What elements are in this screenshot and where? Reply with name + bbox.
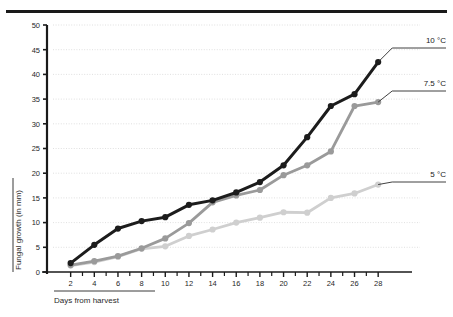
x-tick-label: 4 (92, 279, 96, 288)
series-leader-lines (378, 48, 446, 185)
y-tick-label: 20 (32, 169, 40, 178)
series-leader-line (378, 182, 446, 185)
x-tick-label: 12 (185, 279, 193, 288)
y-tick-label: 45 (32, 46, 40, 55)
x-tick-label: 22 (303, 279, 311, 288)
y-tick-label: 30 (32, 120, 40, 129)
grid-lines (53, 25, 420, 247)
data-point-marker (233, 189, 239, 195)
data-point-marker (162, 214, 168, 220)
series-label-3: 5 °C (430, 170, 446, 179)
y-tick-label: 40 (32, 70, 40, 79)
y-tick-label: 35 (32, 95, 40, 104)
x-axis-title: Days from harvest (54, 296, 120, 305)
data-point-marker (209, 197, 215, 203)
x-tick-label: 20 (279, 279, 287, 288)
x-tick-label: 16 (232, 279, 240, 288)
x-tick-label: 26 (350, 279, 358, 288)
data-point-marker (186, 202, 192, 208)
series-labels: 10 °C7.5 °C5 °C (424, 36, 447, 179)
x-tick-label: 24 (327, 279, 335, 288)
data-point-marker (351, 103, 357, 109)
line-chart: 05101520253035404550 2468101214161820222… (0, 0, 453, 317)
data-point-marker (186, 220, 192, 226)
data-point-marker (328, 103, 334, 109)
data-point-marker (91, 258, 97, 264)
figure-container: 05101520253035404550 2468101214161820222… (0, 0, 453, 317)
y-tick-label: 50 (32, 21, 40, 30)
data-point-marker (280, 172, 286, 178)
x-axis-ticks: 246810121416182022242628 (69, 272, 383, 288)
series-leader-line (378, 48, 446, 62)
y-tick-label: 15 (32, 194, 40, 203)
data-point-marker (233, 220, 239, 226)
x-tick-label: 28 (374, 279, 382, 288)
data-point-marker (280, 209, 286, 215)
data-point-marker (257, 187, 263, 193)
data-point-marker (91, 242, 97, 248)
x-tick-label: 6 (116, 279, 120, 288)
data-point-marker (304, 162, 310, 168)
y-axis-title: Fungal growth (in mm) (14, 190, 23, 270)
axes (42, 25, 412, 274)
data-point-marker (280, 162, 286, 168)
data-point-marker (328, 195, 334, 201)
x-tick-label: 10 (161, 279, 169, 288)
data-point-marker (351, 190, 357, 196)
series-line (71, 62, 379, 263)
data-point-marker (304, 134, 310, 140)
series-label-1: 10 °C (426, 36, 446, 45)
x-tick-label: 8 (140, 279, 144, 288)
data-point-marker (68, 260, 74, 266)
y-tick-label: 10 (32, 218, 40, 227)
data-point-marker (304, 210, 310, 216)
data-point-marker (115, 253, 121, 259)
data-point-marker (139, 245, 145, 251)
y-tick-label: 5 (36, 243, 40, 252)
data-point-marker (209, 226, 215, 232)
data-point-marker (162, 243, 168, 249)
series-label-2: 7.5 °C (424, 79, 447, 88)
series-leader-line (378, 91, 446, 102)
data-point-marker (162, 235, 168, 241)
data-series-group (68, 59, 382, 269)
y-axis-ticks: 05101520253035404550 (32, 21, 47, 277)
data-point-marker (328, 148, 334, 154)
x-tick-label: 2 (69, 279, 73, 288)
x-tick-label: 18 (256, 279, 264, 288)
data-point-marker (257, 179, 263, 185)
data-point-marker (351, 91, 357, 97)
x-tick-label: 14 (208, 279, 216, 288)
series-line (71, 102, 379, 265)
y-tick-label: 25 (32, 144, 40, 153)
data-point-marker (115, 225, 121, 231)
data-point-marker (257, 215, 263, 221)
y-tick-label: 0 (36, 268, 40, 277)
data-point-marker (186, 233, 192, 239)
data-point-marker (139, 218, 145, 224)
